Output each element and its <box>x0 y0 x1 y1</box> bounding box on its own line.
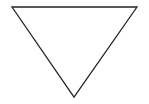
inverted-triangle-shape <box>12 7 137 97</box>
diagram-canvas <box>0 0 149 104</box>
